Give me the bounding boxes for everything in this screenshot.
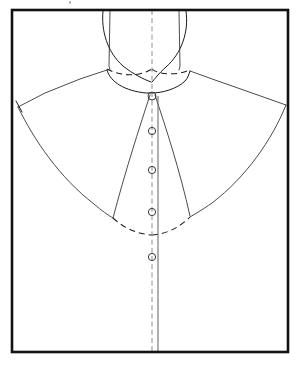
pattern-drawing-canvas [0,0,300,366]
scan-speck [69,1,71,4]
pattern-diagram-figure [0,0,300,366]
paper-background [0,0,300,366]
